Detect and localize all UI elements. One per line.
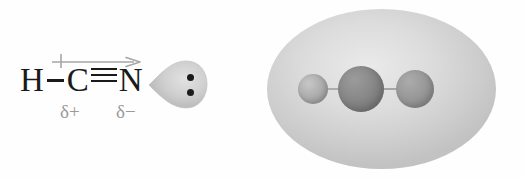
lewis-structure-panel: H C N δ+ δ− (0, 0, 262, 179)
model-sphere-hydrogen (298, 74, 328, 104)
space-filling-model-panel (262, 0, 524, 179)
model-sphere-nitrogen (396, 70, 434, 108)
carbon-atom-label: C (67, 62, 89, 98)
triple-bond-c-n (91, 67, 117, 83)
molecular-formula: H C N (20, 62, 143, 98)
nitrogen-atom-label: N (119, 62, 143, 98)
lone-pair-dot-bottom (187, 89, 194, 96)
hydrogen-atom-label: H (20, 62, 44, 98)
model-sphere-carbon (338, 66, 384, 112)
lone-pair-lobe-icon (148, 58, 208, 110)
single-bond-h-c (47, 79, 64, 82)
hcn-polarity-figure: H C N δ+ δ− (0, 0, 524, 179)
partial-charge-delta-minus: δ− (116, 101, 136, 123)
partial-charge-delta-plus: δ+ (60, 101, 80, 123)
lone-pair-dot-top (187, 74, 194, 81)
